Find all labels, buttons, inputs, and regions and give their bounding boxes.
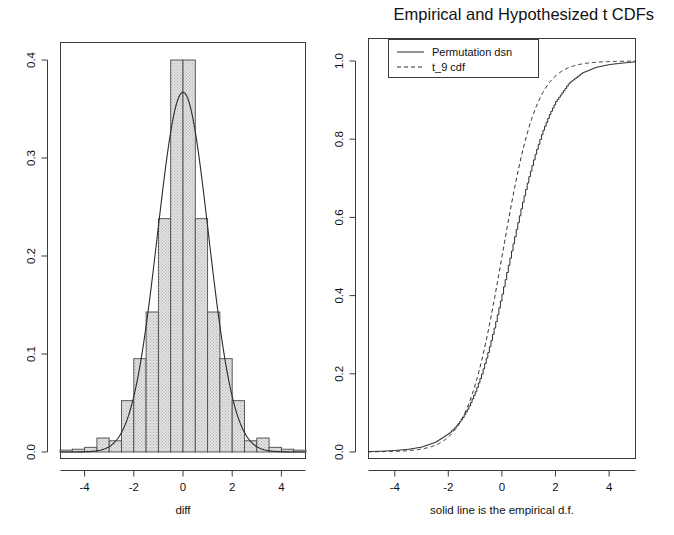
histogram-bar (208, 312, 220, 452)
left-x-axis-label: diff (175, 504, 191, 516)
left-x-tick-label: -4 (79, 481, 90, 493)
left-y-tick-label: 0.2 (25, 248, 37, 264)
cdf-legend: Permutation dsn t_9 cdf (389, 40, 539, 78)
right-x-tick-label: 2 (552, 481, 558, 493)
histogram-bar (245, 441, 257, 452)
left-x-tick-label: 0 (180, 481, 186, 493)
right-y-tick-label: 1.0 (333, 53, 345, 69)
histogram-bar (109, 441, 121, 452)
left-x-tick-label: -2 (129, 481, 139, 493)
page-title: Empirical and Hypothesized t CDFs (394, 5, 654, 23)
right-x-tick-label: 4 (606, 481, 613, 493)
histogram-bar (146, 312, 158, 452)
right-x-tick-label: -4 (390, 481, 401, 493)
left-y-tick-label: 0.1 (25, 346, 37, 362)
histogram-bar (232, 401, 244, 452)
right-y-tick-label: 0.6 (333, 209, 345, 225)
left-y-tick-label: 0.4 (25, 51, 37, 68)
right-y-tick-label: 0.0 (333, 444, 345, 460)
legend-label-permutation: Permutation dsn (432, 46, 512, 58)
histogram-bar (195, 219, 207, 452)
histogram-bar (220, 359, 232, 452)
statistical-figure: Empirical and Hypothesized t CDFs -4 -2 … (0, 0, 674, 535)
right-y-tick-label: 0.8 (333, 131, 345, 147)
left-y-tick-label: 0.0 (25, 444, 37, 460)
right-x-tick-label: -2 (443, 481, 453, 493)
histogram-bar (122, 401, 134, 452)
histogram-bar (134, 359, 146, 452)
right-x-axis-label: solid line is the empirical d.f. (430, 504, 574, 516)
legend-label-t9: t_9 cdf (432, 61, 466, 73)
left-x-tick-label: 2 (229, 481, 235, 493)
left-y-tick-label: 0.3 (25, 150, 37, 166)
right-x-tick-label: 0 (499, 481, 505, 493)
right-y-tick-label: 0.2 (333, 366, 345, 382)
right-y-tick-label: 0.4 (333, 287, 345, 304)
histogram-bar (158, 219, 170, 452)
left-x-tick-label: 4 (278, 481, 285, 493)
